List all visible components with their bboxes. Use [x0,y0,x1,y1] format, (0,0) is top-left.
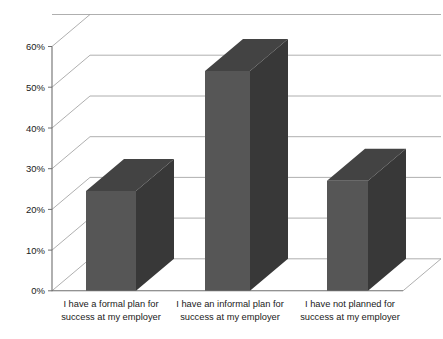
category-label-2-line2: success at my employer [300,312,400,322]
gridline-40-riser [52,96,90,128]
bar-1-front-face [205,71,250,291]
bars-group [86,39,406,291]
bar-2 [327,149,406,291]
category-label-1-line1: I have an informal plan for [176,299,284,309]
gridline-top-riser [52,15,90,47]
bar-1 [205,39,288,291]
y-tick-label-30: 30% [26,163,46,174]
y-tick-label-0: 0% [31,285,45,296]
y-tick-label-60: 60% [26,41,46,52]
y-axis-group [48,47,52,292]
category-label-2-line1: I have not planned for [305,299,395,309]
gridline-30-riser [52,137,90,169]
bar-chart-figure: 60% 50% 40% 30% 20% 10% 0% I have a form… [0,0,443,339]
bar-1-side-face [250,39,288,291]
chart-canvas: 60% 50% 40% 30% 20% 10% 0% I have a form… [0,0,443,339]
category-label-1-line2: success at my employer [180,312,280,322]
category-label-0-line1: I have a formal plan for [63,299,158,309]
bar-2-front-face [327,181,368,291]
y-tick-label-20: 20% [26,204,46,215]
category-labels-group: I have a formal plan for success at my e… [61,299,400,322]
y-tick-label-10: 10% [26,245,46,256]
category-label-0-line2: success at my employer [61,312,161,322]
bar-0 [86,159,174,291]
bar-0-front-face [86,191,136,291]
gridline-20-riser [52,177,90,209]
y-tick-label-40: 40% [26,123,46,134]
gridline-0-riser [52,259,90,291]
y-axis-labels: 60% 50% 40% 30% 20% 10% 0% [26,41,46,296]
y-tick-label-50: 50% [26,82,46,93]
gridline-10-riser [52,218,90,250]
floor-right-riser [403,259,441,291]
gridline-50-riser [52,55,90,87]
